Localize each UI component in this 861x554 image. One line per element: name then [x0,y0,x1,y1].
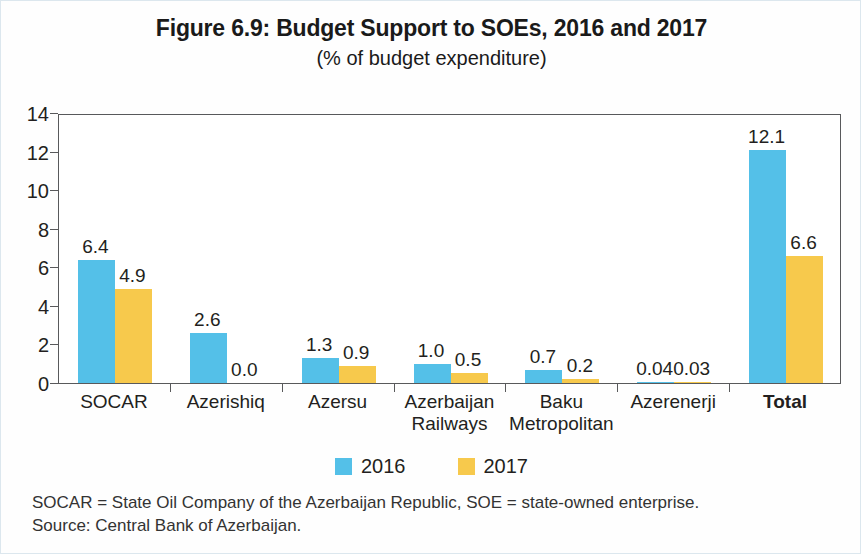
legend-label-2016: 2016 [361,456,406,476]
y-axis-tick-label: 12 [5,143,49,163]
bar-2017 [674,382,711,383]
note-source: Source: Central Bank of Azerbaijan. [32,514,832,537]
legend-swatch-2016-icon [335,458,352,475]
bar-value-label: 12.1 [735,127,798,146]
category-label-line: Metropolitan [493,413,629,435]
bar-value-label: 0.5 [437,350,500,369]
bar-value-label: 0.2 [548,356,611,375]
bar-2016 [749,150,786,383]
legend-item-2016[interactable]: 2016 [335,456,406,476]
chart-title: Figure 6.9: Budget Support to SOEs, 2016… [1,13,861,43]
bar-2017 [451,373,488,383]
category-label-line: Total [717,391,853,413]
bar-2016 [637,382,674,383]
y-axis-tick-label: 14 [5,104,49,124]
bar-value-label: 6.6 [772,233,835,252]
y-axis-tick-label: 6 [5,258,49,278]
y-axis-tick-label: 10 [5,181,49,201]
bar-value-label: 0.9 [325,343,388,362]
y-axis-tick-label: 8 [5,220,49,240]
bar-value-label: 0.03 [660,359,723,378]
y-axis-tick-mark [50,306,58,307]
y-axis-tick-label: 2 [5,335,49,355]
x-axis-category-label: Total [717,391,853,413]
bar-value-label: 6.4 [64,237,127,256]
bar-value-label: 4.9 [101,266,164,285]
title-block: Figure 6.9: Budget Support to SOEs, 2016… [1,13,861,72]
y-axis-tick-mark [50,229,58,230]
y-axis-tick-label: 4 [5,297,49,317]
bar-2017 [115,289,152,384]
y-axis-tick-label: 0 [5,374,49,394]
y-axis-tick-mark [50,190,58,191]
note-abbreviations: SOCAR = State Oil Company of the Azerbai… [32,491,832,514]
chart-subtitle: (% of budget expenditure) [1,44,861,72]
figure-notes: SOCAR = State Oil Company of the Azerbai… [32,491,832,537]
legend-label-2017: 2017 [484,456,529,476]
bar-2016 [302,358,339,383]
y-axis-tick-mark [50,113,58,114]
bar-value-label: 2.6 [176,310,239,329]
bar-value-label: 0.0 [213,360,276,379]
chart-legend: 2016 2017 [1,456,861,476]
legend-item-2017[interactable]: 2017 [458,456,529,476]
bar-2017 [786,256,823,383]
y-axis-tick-mark [50,344,58,345]
bar-2017 [339,366,376,383]
y-axis-tick-mark [50,267,58,268]
bar-2017 [562,379,599,383]
y-axis-tick-mark [50,152,58,153]
figure-container: Figure 6.9: Budget Support to SOEs, 2016… [0,0,861,554]
y-axis-tick-mark [50,383,58,384]
legend-swatch-2017-icon [458,458,475,475]
